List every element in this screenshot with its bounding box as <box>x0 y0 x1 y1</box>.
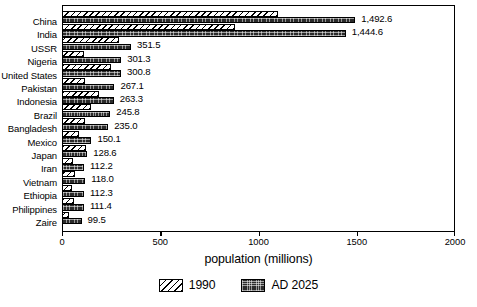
bar-1990 <box>62 51 84 57</box>
bar-1990 <box>62 78 85 84</box>
category-label: Japan <box>32 149 57 162</box>
category-label: Brazil <box>34 109 57 122</box>
bar-value-label: 112.2 <box>90 160 113 171</box>
x-axis-tick <box>357 232 358 236</box>
x-axis-tick <box>454 232 455 236</box>
bar-group: 1,444.6 <box>62 24 455 37</box>
category-label: Indonesia <box>17 95 57 108</box>
bar-ad-2025 <box>62 84 114 90</box>
category-label: United States <box>1 69 57 82</box>
bar-ad-2025 <box>62 191 84 197</box>
bar-group: 300.8 <box>62 64 455 77</box>
bar-value-label: 128.6 <box>93 147 116 158</box>
category-label: Nigeria <box>28 55 57 68</box>
x-axis-tick <box>259 232 260 236</box>
bar-1990 <box>62 118 85 124</box>
bar-ad-2025 <box>62 218 82 224</box>
x-axis-tick-label: 0 <box>59 237 64 248</box>
bar-group: 267.1 <box>62 78 455 91</box>
bar-ad-2025 <box>62 17 355 23</box>
bar-1990 <box>62 198 74 204</box>
bar-group: 112.3 <box>62 185 455 198</box>
bar-group: 351.5 <box>62 37 455 50</box>
bar-1990 <box>62 24 235 30</box>
bar-1990 <box>62 131 79 137</box>
bar-value-label: 263.3 <box>120 93 143 104</box>
bar-1990 <box>62 158 73 164</box>
category-label: Vietnam <box>23 176 57 189</box>
legend-entry-ad-2025: AD 2025 <box>241 278 318 292</box>
bar-group: 118.0 <box>62 171 455 184</box>
bar-group: 99.5 <box>62 212 455 225</box>
legend-swatch-ad-2025-icon <box>241 279 265 292</box>
legend-entry-1990: 1990 <box>159 278 216 292</box>
category-label: USSR <box>31 42 57 55</box>
x-axis-title: population (millions) <box>62 252 455 266</box>
bar-1990 <box>62 145 86 151</box>
category-label: China <box>33 15 57 28</box>
category-label: Mexico <box>28 136 58 149</box>
bar-group: 235.0 <box>62 118 455 131</box>
bar-1990 <box>62 11 278 17</box>
bar-group: 263.3 <box>62 91 455 104</box>
bar-value-label: 351.5 <box>137 39 160 50</box>
bar-value-label: 235.0 <box>114 120 137 131</box>
legend-label-ad-2025: AD 2025 <box>271 278 318 292</box>
bar-ad-2025 <box>62 57 121 63</box>
x-axis-tick-label: 1000 <box>248 237 269 248</box>
bar-ad-2025 <box>62 30 346 36</box>
bar-1990 <box>62 212 69 218</box>
bar-group: 128.6 <box>62 145 455 158</box>
category-label: Pakistan <box>21 82 57 95</box>
x-axis: 0500100015002000 <box>62 232 455 254</box>
bars-layer: 1,492.61,444.6351.5301.3300.8267.1263.32… <box>62 5 455 232</box>
x-axis-tick-label: 500 <box>152 237 168 248</box>
legend-swatch-1990-icon <box>159 279 183 292</box>
bar-ad-2025 <box>62 97 114 103</box>
bar-1990 <box>62 104 91 110</box>
category-label: Zaire <box>36 216 57 229</box>
bar-ad-2025 <box>62 151 87 157</box>
chart-legend: 1990 AD 2025 <box>0 278 477 292</box>
category-label: Iran <box>41 162 57 175</box>
x-axis-tick <box>160 232 161 236</box>
bar-ad-2025 <box>62 44 131 50</box>
bar-value-label: 111.4 <box>90 200 112 211</box>
bar-value-label: 245.8 <box>116 106 139 117</box>
population-bar-chart: ChinaIndiaUSSRNigeriaUnited StatesPakist… <box>0 0 477 307</box>
category-label: India <box>37 28 57 41</box>
bar-value-label: 301.3 <box>127 53 150 64</box>
bar-group: 245.8 <box>62 104 455 117</box>
bar-ad-2025 <box>62 204 84 210</box>
bar-value-label: 118.0 <box>91 173 114 184</box>
x-axis-tick-label: 1500 <box>346 237 367 248</box>
bar-ad-2025 <box>62 137 91 143</box>
bar-value-label: 1,444.6 <box>352 26 383 37</box>
x-axis-tick-label: 2000 <box>445 237 466 248</box>
bar-group: 1,492.6 <box>62 11 455 24</box>
category-label: Ethiopia <box>23 189 57 202</box>
bar-value-label: 99.5 <box>88 214 106 225</box>
bar-ad-2025 <box>62 178 85 184</box>
bar-group: 111.4 <box>62 198 455 211</box>
bar-value-label: 300.8 <box>127 66 150 77</box>
bar-1990 <box>62 91 99 97</box>
bar-group: 150.1 <box>62 131 455 144</box>
bar-value-label: 112.3 <box>90 187 113 198</box>
bar-value-label: 1,492.6 <box>361 13 392 24</box>
x-axis-tick <box>62 232 63 236</box>
bar-value-label: 267.1 <box>120 80 143 91</box>
bar-ad-2025 <box>62 70 121 76</box>
bar-ad-2025 <box>62 111 110 117</box>
bar-group: 301.3 <box>62 51 455 64</box>
category-label: Philippines <box>12 203 57 216</box>
bar-1990 <box>62 185 72 191</box>
bar-1990 <box>62 171 75 177</box>
category-axis: ChinaIndiaUSSRNigeriaUnited StatesPakist… <box>0 10 60 232</box>
category-label: Bangladesh <box>8 122 57 135</box>
legend-label-1990: 1990 <box>189 278 216 292</box>
bar-ad-2025 <box>62 124 108 130</box>
bar-ad-2025 <box>62 164 84 170</box>
bar-group: 112.2 <box>62 158 455 171</box>
bar-1990 <box>62 64 111 70</box>
